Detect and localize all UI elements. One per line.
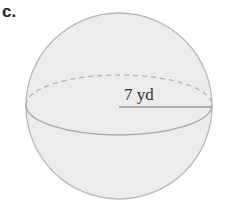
sphere-outline: [26, 13, 212, 199]
radius-label: 7 yd: [124, 85, 154, 104]
sphere-diagram: 7 yd: [0, 0, 227, 207]
